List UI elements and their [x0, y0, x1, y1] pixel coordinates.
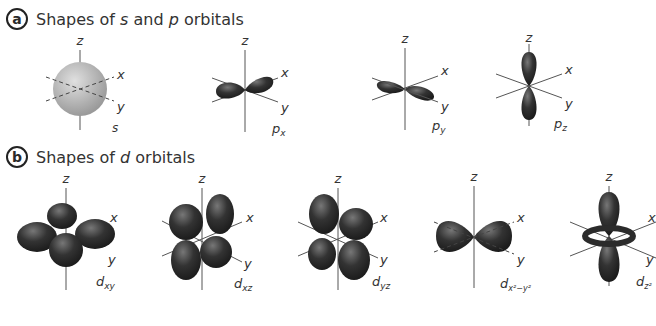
orbital-dz2: z x y dz²	[570, 169, 656, 291]
orbital-dxz: z x y dxz	[162, 171, 254, 293]
orbital-label: py	[431, 118, 446, 135]
y-axis-label: y	[243, 256, 252, 271]
orbital-label: dz²	[636, 274, 652, 291]
orbital-s: z x y s	[46, 33, 125, 135]
orbital-label: pz	[553, 116, 567, 133]
y-axis-label: y	[107, 252, 116, 267]
orbital-dyz: z x y dyz	[298, 171, 391, 291]
z-axis-label: z	[525, 30, 534, 45]
orbital-px: z x y px	[212, 33, 289, 138]
y-axis-label: y	[379, 252, 388, 267]
orbital-pz: z x y pz	[496, 30, 573, 133]
x-axis-label: x	[379, 210, 388, 225]
x-axis-label: x	[109, 210, 118, 225]
x-axis-label: x	[647, 210, 656, 225]
orbital-label: px	[271, 121, 286, 138]
orbital-label: dx²−y²	[500, 276, 532, 293]
x-axis-label: x	[116, 67, 125, 82]
z-axis-label: z	[605, 169, 614, 184]
orbital-dxy: z x y dxy	[17, 171, 118, 291]
orbital-label: dxz	[234, 276, 253, 293]
y-axis-label: y	[516, 252, 525, 267]
z-axis-label: z	[198, 171, 207, 186]
x-axis-label: x	[280, 65, 289, 80]
orbital-label: s	[112, 121, 118, 135]
orbital-py: z x y py	[372, 31, 449, 135]
orbital-diagram: z x y s z x y px z x y py z x y pz	[0, 0, 656, 326]
z-axis-label: z	[241, 33, 250, 48]
x-axis-label: x	[564, 62, 573, 77]
y-axis-label: y	[280, 100, 289, 115]
z-axis-label: z	[76, 33, 85, 48]
z-axis-label: z	[401, 31, 410, 46]
z-axis-label: z	[470, 169, 479, 184]
x-axis-label: x	[516, 210, 525, 225]
z-axis-label: z	[62, 171, 71, 186]
y-axis-label: y	[116, 99, 125, 114]
y-axis-label: y	[440, 99, 449, 114]
y-axis-label: y	[564, 96, 573, 111]
orbital-dx2-y2: z x y dx²−y²	[434, 169, 532, 293]
x-axis-label: x	[245, 210, 254, 225]
orbital-label: dyz	[372, 274, 391, 291]
x-axis-label: x	[440, 63, 449, 78]
y-axis-label: y	[645, 252, 654, 267]
z-axis-label: z	[334, 171, 343, 186]
orbital-label: dxy	[96, 274, 116, 291]
